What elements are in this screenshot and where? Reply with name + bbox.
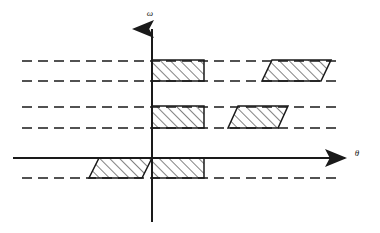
- hatched-band-3-left: [89, 158, 152, 178]
- hatched-band-1-left: [152, 60, 204, 81]
- hatched-regions: [89, 60, 331, 178]
- hatched-band-1-right: [262, 60, 331, 81]
- hatched-band-2-right: [228, 106, 288, 128]
- hatched-band-3-right: [152, 158, 204, 178]
- hatched-band-2-left: [152, 106, 204, 128]
- omega-axis-label: ω: [147, 8, 153, 18]
- theta-axis-label: θ: [355, 148, 360, 158]
- figure-container: ω θ: [0, 0, 380, 233]
- stability-region-diagram: ω θ: [0, 0, 380, 233]
